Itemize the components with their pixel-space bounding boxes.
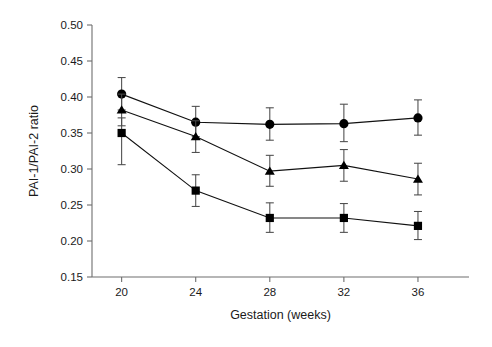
data-point-circle xyxy=(265,120,274,129)
y-axis-title: PAI-1/PAI-2 ratio xyxy=(27,105,41,197)
y-tick-label: 0.35 xyxy=(61,127,83,139)
data-point-square xyxy=(266,214,274,222)
y-tick-label: 0.40 xyxy=(61,91,83,103)
x-tick-label: 28 xyxy=(263,286,276,298)
y-tick-label: 0.50 xyxy=(61,19,83,31)
data-point-circle xyxy=(339,119,348,128)
data-point-triangle xyxy=(339,161,349,169)
x-tick-label: 24 xyxy=(189,286,202,298)
chart-figure: 0.150.200.250.300.350.400.450.50 2024283… xyxy=(0,0,492,347)
y-tick-label: 0.15 xyxy=(61,271,83,283)
y-tick-label: 0.25 xyxy=(61,199,83,211)
x-tick-label: 20 xyxy=(115,286,128,298)
x-axis-title: Gestation (weeks) xyxy=(230,308,331,322)
series-circle xyxy=(117,78,423,142)
x-tick-label: 32 xyxy=(337,286,350,298)
data-point-square xyxy=(118,129,126,137)
y-tick-label: 0.20 xyxy=(61,235,83,247)
data-point-circle xyxy=(413,113,422,122)
data-point-square xyxy=(340,214,348,222)
y-axis-ticks: 0.150.200.250.300.350.400.450.50 xyxy=(61,19,92,283)
x-tick-label: 36 xyxy=(412,286,425,298)
data-series-group xyxy=(117,78,423,240)
error-bar xyxy=(118,118,126,165)
y-tick-label: 0.45 xyxy=(61,55,83,67)
data-point-square xyxy=(414,222,422,230)
data-point-square xyxy=(192,187,200,195)
axis-spines xyxy=(92,25,469,277)
y-tick-label: 0.30 xyxy=(61,163,83,175)
chart-canvas: 0.150.200.250.300.350.400.450.50 2024283… xyxy=(0,0,492,347)
x-axis-ticks: 2024283236 xyxy=(115,277,424,298)
